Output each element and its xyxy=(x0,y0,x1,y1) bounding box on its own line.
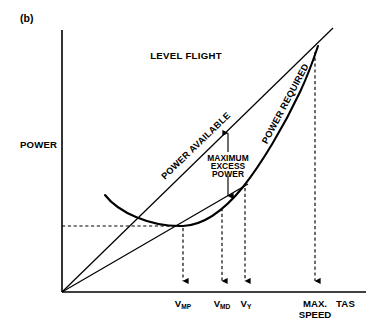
tick-label-vmd: VMD xyxy=(214,298,231,310)
panel-label: (b) xyxy=(20,12,33,24)
maximum-excess-power-label: MAXIMUM EXCESS POWER xyxy=(207,153,249,179)
x-axis-label: TAS xyxy=(336,298,355,309)
tick-label-max-speed-line2: SPEED xyxy=(299,309,332,320)
tick-label-vmp: VMP xyxy=(175,298,192,310)
tangent-from-origin-line xyxy=(62,184,248,292)
tangent-line-group xyxy=(62,184,248,292)
y-axis-label: POWER xyxy=(20,139,57,150)
power-available-line xyxy=(62,28,333,292)
excess-power-line-3: POWER xyxy=(212,169,244,179)
power-available-line-group xyxy=(62,28,333,292)
x-tick-labels-group: VMP VMD VY MAX. SPEED xyxy=(175,298,331,320)
tick-label-max-speed-line1: MAX. xyxy=(303,298,327,309)
tick-label-vy: VY xyxy=(241,298,252,310)
chart-title: LEVEL FLIGHT xyxy=(150,50,222,61)
power-vs-tas-diagram: (b) LEVEL FLIGHT POWER TAS POWER AVAILAB… xyxy=(0,0,376,330)
figure-container: (b) LEVEL FLIGHT POWER TAS POWER AVAILAB… xyxy=(0,0,376,330)
